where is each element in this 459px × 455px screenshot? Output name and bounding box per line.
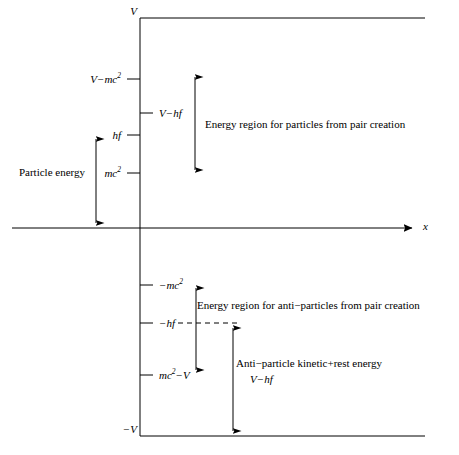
particle-region-label: Energy region for particles from pair cr… — [205, 119, 405, 130]
tick-label-mc2: mc2 — [104, 168, 121, 179]
tick-label-minus-hf: −hf — [159, 318, 175, 329]
energy-level-diagram: V −V V−mc2 V−hf hf mc2 −mc2 −hf mc2−V x … — [0, 0, 459, 455]
antiparticle-region-label: Energy region for anti−particles from pa… — [197, 300, 420, 311]
tick-label-hf: hf — [112, 130, 121, 141]
antiparticle-energy-label-line2: V−hf — [250, 374, 273, 385]
particle-energy-label: Particle energy — [19, 167, 85, 178]
level-label-minus-V: −V — [123, 424, 137, 435]
tick-label-minus-mc2: −mc2 — [159, 280, 183, 291]
tick-marks-lower — [140, 285, 153, 375]
tick-label-V-minus-mc2: V−mc2 — [90, 74, 121, 85]
x-axis-label: x — [423, 221, 428, 232]
level-label-V: V — [130, 6, 137, 17]
tick-label-mc2-minus-V: mc2−V — [159, 370, 190, 381]
antiparticle-energy-label-line1: Anti−particle kinetic+rest energy — [236, 358, 382, 369]
tick-label-V-minus-hf: V−hf — [159, 108, 182, 119]
diagram-canvas — [0, 0, 459, 455]
